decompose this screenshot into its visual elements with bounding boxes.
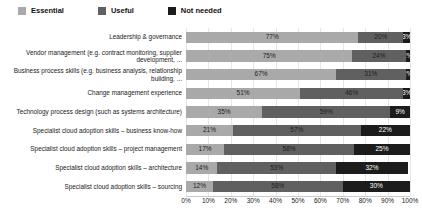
x-axis-ticks: 0%10%20%30%40%50%60%70%80%90%100% (186, 198, 410, 210)
bar-segment[interactable]: 20% (358, 32, 403, 44)
stacked-bar-chart: EssentialUsefulNot needed Leadership & g… (0, 0, 422, 219)
legend-swatch-icon (98, 7, 106, 15)
bar-segment[interactable]: 25% (354, 144, 410, 156)
bar-segment-value-label: 46% (345, 90, 358, 97)
legend-swatch-icon (18, 7, 26, 15)
bar-segment[interactable]: 57% (233, 125, 361, 137)
bar-segment-value-label: 12% (193, 183, 206, 190)
bar-segment-value-label: 77% (266, 34, 279, 41)
bar-segment[interactable]: 2% (406, 69, 410, 81)
bar-segment-value-label: 75% (263, 53, 276, 60)
legend-item[interactable]: Essential (18, 7, 64, 15)
bar-segment-value-label: 3% (403, 90, 410, 97)
bar-segment[interactable]: 58% (213, 181, 343, 193)
legend-item-label: Not needed (181, 7, 222, 15)
category-label: Leadership & governance (0, 33, 182, 41)
bar-segment-value-label: 32% (365, 165, 378, 172)
bar-segment-value-label: 58% (271, 183, 284, 190)
category-label: Vendor management (e.g. contract monitor… (0, 49, 182, 64)
category-label: Specialist cloud adoption skills – busin… (0, 127, 182, 135)
legend-swatch-icon (168, 7, 176, 15)
bar-row[interactable]: 75%24%2% (186, 50, 410, 62)
x-axis-tick-label: 10% (202, 198, 215, 205)
legend-item-label: Essential (31, 7, 64, 15)
bar-segment-value-label: 57% (290, 127, 303, 134)
bar-segment-value-label: 53% (270, 165, 283, 172)
category-label: Change management experience (0, 89, 182, 97)
bar-row[interactable]: 21%57%22% (186, 125, 410, 137)
bar-segment[interactable]: 35% (186, 106, 262, 118)
bar-segment-value-label: 58% (283, 146, 296, 153)
legend-item[interactable]: Not needed (168, 7, 222, 15)
bar-segment-value-label: 2% (406, 53, 410, 60)
x-axis-tick-label: 40% (269, 198, 282, 205)
bar-segment-value-label: 24% (372, 53, 385, 60)
bar-segment-value-label: 25% (375, 146, 388, 153)
category-axis-labels: Leadership & governanceVendor management… (0, 28, 182, 196)
x-axis-tick-label: 70% (336, 198, 349, 205)
x-axis-tick-label: 100% (402, 198, 419, 205)
bar-row[interactable]: 35%59%9% (186, 106, 410, 118)
bar-segment-value-label: 3% (403, 34, 410, 41)
bar-segment[interactable]: 58% (224, 144, 354, 156)
bar-segment-value-label: 21% (203, 127, 216, 134)
bar-segment[interactable]: 22% (361, 125, 410, 137)
bar-segment-value-label: 51% (237, 90, 250, 97)
bar-row[interactable]: 14%53%32% (186, 162, 410, 174)
bar-segment[interactable]: 46% (300, 88, 403, 100)
x-axis-tick-label: 90% (381, 198, 394, 205)
x-axis-tick-label: 50% (291, 198, 304, 205)
bar-segment-value-label: 22% (379, 127, 392, 134)
x-axis-tick-label: 0% (181, 198, 190, 205)
x-axis-tick-label: 30% (247, 198, 260, 205)
gridline (410, 28, 411, 196)
legend-item-label: Useful (111, 7, 134, 15)
bar-segment-value-label: 17% (199, 146, 212, 153)
bar-segment[interactable]: 9% (390, 106, 410, 118)
bar-segment[interactable]: 75% (186, 50, 352, 62)
bar-segment-value-label: 2% (406, 71, 410, 78)
bar-segment[interactable]: 12% (186, 181, 213, 193)
bar-segment[interactable]: 3% (403, 32, 410, 44)
bar-segment[interactable]: 32% (336, 162, 408, 174)
bar-segment[interactable]: 53% (217, 162, 336, 174)
bar-segment-value-label: 20% (374, 34, 387, 41)
bar-segment-value-label: 14% (195, 165, 208, 172)
bar-segment-value-label: 59% (320, 109, 333, 116)
bar-row[interactable]: 12%58%30% (186, 181, 410, 193)
bar-segment-value-label: 67% (255, 71, 268, 78)
category-label: Business process skills (e.g. business a… (0, 67, 182, 82)
bar-row[interactable]: 77%20%3% (186, 32, 410, 44)
x-axis-tick-label: 20% (224, 198, 237, 205)
legend-item[interactable]: Useful (98, 7, 134, 15)
bar-row[interactable]: 51%46%3% (186, 88, 410, 100)
bar-segment[interactable]: 17% (186, 144, 224, 156)
bar-segment[interactable]: 59% (262, 106, 390, 118)
bar-segment[interactable]: 21% (186, 125, 233, 137)
x-axis-tick-label: 60% (314, 198, 327, 205)
category-label: Specialist cloud adoption skills – archi… (0, 164, 182, 172)
bar-segment-value-label: 35% (218, 109, 231, 116)
bar-segment[interactable]: 51% (186, 88, 300, 100)
plot-area: 77%20%3%75%24%2%67%31%2%51%46%3%35%59%9%… (186, 28, 410, 196)
bar-segment[interactable]: 30% (343, 181, 410, 193)
chart-legend: EssentialUsefulNot needed (18, 4, 256, 18)
bar-segment-value-label: 30% (370, 183, 383, 190)
bar-segment[interactable]: 67% (186, 69, 336, 81)
category-label: Specialist cloud adoption skills – proje… (0, 145, 182, 153)
x-axis-tick-label: 80% (359, 198, 372, 205)
bar-segment[interactable]: 2% (406, 50, 410, 62)
bar-row[interactable]: 67%31%2% (186, 69, 410, 81)
bar-segment[interactable]: 77% (186, 32, 358, 44)
bar-rows: 77%20%3%75%24%2%67%31%2%51%46%3%35%59%9%… (186, 28, 410, 196)
bar-segment-value-label: 31% (364, 71, 377, 78)
bar-segment[interactable]: 24% (352, 50, 405, 62)
category-label: Specialist cloud adoption skills – sourc… (0, 183, 182, 191)
bar-segment[interactable]: 14% (186, 162, 217, 174)
bar-segment[interactable]: 31% (336, 69, 405, 81)
category-label: Technology process design (such as syste… (0, 108, 182, 116)
bar-segment[interactable]: 3% (403, 88, 410, 100)
bar-row[interactable]: 17%58%25% (186, 144, 410, 156)
bar-segment-value-label: 9% (396, 109, 405, 116)
